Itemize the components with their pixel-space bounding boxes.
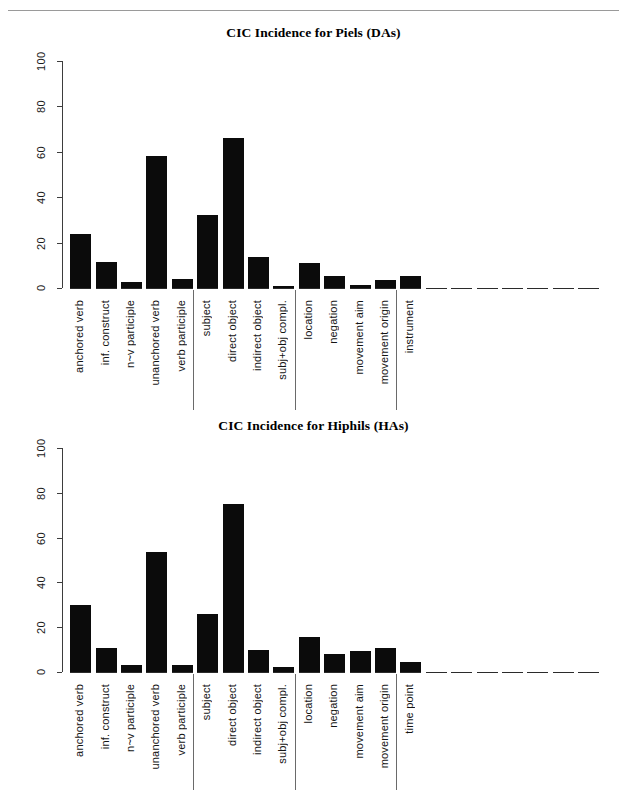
x-axis-category-label: unanchored verb <box>150 300 161 386</box>
bar <box>223 138 244 288</box>
bar-baseline-segment <box>451 288 472 289</box>
bar-baseline-segment <box>70 288 91 289</box>
x-axis-category-label: subject <box>201 684 212 720</box>
x-axis-category-label: indirect object <box>252 684 263 755</box>
x-axis-category-label: verb participle <box>176 684 187 755</box>
bar <box>248 650 269 672</box>
bar-baseline-segment <box>96 288 117 289</box>
bar <box>350 285 371 288</box>
bar <box>248 257 269 288</box>
category-group-separator <box>396 674 397 790</box>
x-axis-category-label: movement origin <box>379 684 390 768</box>
category-group-separator <box>295 290 296 410</box>
bar <box>70 605 91 672</box>
bar-baseline-segment <box>197 288 218 289</box>
y-axis-tick-label-hiphils: 20 <box>35 614 51 640</box>
x-axis-category-label: subj+obj compl. <box>277 684 288 764</box>
chart-panel-piels: CIC Incidence for Piels (DAs) 0204060801… <box>0 0 627 400</box>
bar-baseline-segment <box>324 672 345 673</box>
x-axis-category-label: time point <box>404 684 415 734</box>
bar-baseline-segment <box>223 672 244 673</box>
y-axis-tick-piels <box>57 61 62 62</box>
bar-baseline-segment <box>477 288 498 289</box>
bar-baseline-segment <box>527 672 548 673</box>
x-axis-category-label: location <box>303 684 314 724</box>
bar <box>70 234 91 288</box>
bar-baseline-segment <box>350 288 371 289</box>
bar-baseline-segment <box>121 672 142 673</box>
bar <box>299 263 320 288</box>
x-axis-category-label: subject <box>201 300 212 336</box>
bar <box>121 282 142 288</box>
bar-baseline-segment <box>96 672 117 673</box>
x-axis-category-label: inf. construct <box>100 684 111 749</box>
bar-baseline-segment <box>477 672 498 673</box>
bar-baseline-segment <box>299 672 320 673</box>
x-axis-category-label: unanchored verb <box>150 684 161 770</box>
x-axis-category-label: anchored verb <box>74 300 85 373</box>
bar-baseline-segment <box>451 672 472 673</box>
bar <box>121 665 142 672</box>
bar-baseline-segment <box>502 288 523 289</box>
bar-baseline-segment <box>553 672 574 673</box>
y-axis-tick-label-piels: 0 <box>35 275 51 301</box>
bar-baseline-segment <box>350 672 371 673</box>
bar-baseline-segment <box>375 672 396 673</box>
bar-baseline-segment <box>375 288 396 289</box>
bar <box>350 651 371 672</box>
bar <box>400 662 421 672</box>
x-axis-category-label: direct object <box>227 300 238 362</box>
bar-baseline-segment <box>146 672 167 673</box>
bar <box>146 156 167 288</box>
bar-baseline-segment <box>172 288 193 289</box>
bar-baseline-segment <box>197 672 218 673</box>
x-axis-category-label: verb participle <box>176 300 187 371</box>
y-axis-tick-hiphils <box>57 448 62 449</box>
y-axis-tick-piels <box>57 152 62 153</box>
bar <box>299 637 320 672</box>
y-axis-tick-label-hiphils: 100 <box>35 435 51 461</box>
x-axis-category-label: movement aim <box>354 684 365 759</box>
plot-area-piels: 020406080100anchored verbinf. constructn… <box>0 0 627 400</box>
x-axis-category-label: anchored verb <box>74 684 85 757</box>
plot-area-hiphils: 020406080100anchored verbinf. constructn… <box>0 400 627 787</box>
x-axis-category-label: n~v participle <box>125 684 136 752</box>
x-axis-category-label: indirect object <box>252 300 263 371</box>
bar-baseline-segment <box>324 288 345 289</box>
bar <box>197 614 218 672</box>
bar-baseline-segment <box>70 672 91 673</box>
y-axis-tick-label-hiphils: 60 <box>35 525 51 551</box>
bar <box>324 276 345 288</box>
y-axis-tick-hiphils <box>57 582 62 583</box>
bar <box>400 276 421 288</box>
category-group-separator <box>295 674 296 790</box>
bar-baseline-segment <box>400 288 421 289</box>
bar <box>96 648 117 672</box>
bar-baseline-segment <box>553 288 574 289</box>
bar-baseline-segment <box>400 672 421 673</box>
bar-baseline-segment <box>248 288 269 289</box>
x-axis-category-label: instrument <box>404 300 415 353</box>
x-axis-category-label: movement origin <box>379 300 390 384</box>
x-axis-category-label: negation <box>328 300 339 344</box>
y-axis-tick-hiphils <box>57 672 62 673</box>
bar-baseline-segment <box>273 672 294 673</box>
bar-baseline-segment <box>426 672 447 673</box>
bar-baseline-segment <box>578 672 599 673</box>
bar <box>146 552 167 672</box>
bar-baseline-segment <box>502 672 523 673</box>
y-axis-tick-label-piels: 60 <box>35 139 51 165</box>
x-axis-category-label: subj+obj compl. <box>277 300 288 380</box>
bar <box>96 262 117 288</box>
bar <box>375 280 396 288</box>
y-axis-line-piels <box>62 61 63 288</box>
bar <box>172 279 193 288</box>
category-group-separator <box>396 290 397 410</box>
x-axis-category-label: location <box>303 300 314 340</box>
bar-baseline-segment <box>146 288 167 289</box>
bar-baseline-segment <box>527 288 548 289</box>
bar-baseline-segment <box>578 288 599 289</box>
y-axis-tick-label-hiphils: 80 <box>35 480 51 506</box>
y-axis-tick-label-piels: 20 <box>35 230 51 256</box>
